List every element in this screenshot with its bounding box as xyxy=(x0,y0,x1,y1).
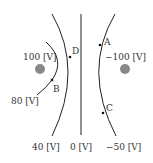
point-A-label: A xyxy=(103,37,111,47)
equipotential-curve-40v xyxy=(52,14,68,136)
right-charge-label: −100 [V] xyxy=(105,52,146,62)
left-charge-label: 100 [V] xyxy=(23,52,57,62)
negative-charge xyxy=(120,64,130,74)
positive-charge xyxy=(35,64,45,74)
equipotential-curve-neg50v xyxy=(99,14,116,136)
label-neg50v: −50 [V] xyxy=(106,142,141,152)
point-A-dot xyxy=(99,44,102,47)
point-B-label: B xyxy=(53,84,60,94)
point-C-label: C xyxy=(106,103,113,113)
label-40v: 40 [V] xyxy=(32,142,60,152)
point-D-label: D xyxy=(72,46,79,56)
point-D-dot xyxy=(69,56,72,59)
point-B-dot xyxy=(51,79,54,82)
equipotential-diagram: D A B C 100 [V] −100 [V] 80 [V] 40 [V] 0… xyxy=(0,0,153,163)
label-80v: 80 [V] xyxy=(11,96,39,106)
point-C-dot xyxy=(102,112,105,115)
label-0v: 0 [V] xyxy=(70,142,92,152)
